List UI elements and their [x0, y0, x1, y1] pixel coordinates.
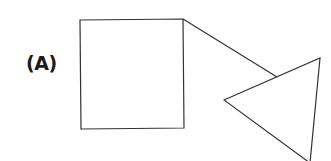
connector-line [183, 19, 277, 77]
diagram-canvas [0, 0, 331, 161]
square-shape [80, 19, 184, 129]
